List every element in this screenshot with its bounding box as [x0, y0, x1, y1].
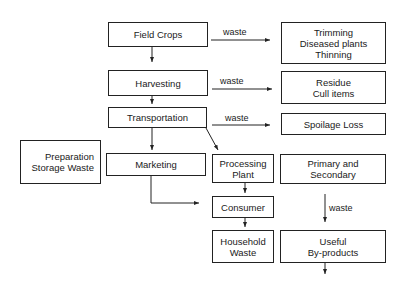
node-label: Transportation — [127, 112, 188, 123]
node-useful-byproducts: Useful By-products — [280, 230, 386, 263]
node-marketing: Marketing — [106, 153, 206, 176]
node-label: Field Crops — [134, 29, 183, 40]
node-label: Thinning — [315, 49, 351, 60]
node-trimming: Trimming Diseased plants Thinning — [281, 22, 386, 64]
node-label: Waste — [230, 247, 257, 258]
node-preparation: Preparation Storage Waste — [20, 140, 101, 184]
node-consumer: Consumer — [212, 196, 274, 218]
node-label: Preparation — [45, 151, 94, 162]
node-label: By-products — [308, 247, 359, 258]
node-label: Cull items — [313, 88, 355, 99]
node-label: Spoilage Loss — [304, 119, 364, 130]
node-processing-plant: Processing Plant — [212, 154, 274, 183]
node-label: Diseased plants — [300, 38, 368, 49]
node-spoilage: Spoilage Loss — [281, 113, 386, 135]
edge-label-waste: waste — [329, 203, 353, 213]
node-household-waste: Household Waste — [212, 230, 274, 263]
node-label: Household — [220, 236, 265, 247]
edge-label-waste: waste — [223, 27, 247, 37]
node-label: Secondary — [310, 169, 355, 180]
edge-label-waste: waste — [220, 76, 244, 86]
node-residue: Residue Cull items — [281, 71, 386, 104]
node-harvesting: Harvesting — [108, 70, 208, 96]
node-label: Plant — [232, 169, 254, 180]
node-transportation: Transportation — [108, 107, 207, 128]
node-label: Consumer — [221, 202, 265, 213]
edge-label-waste: waste — [225, 113, 249, 123]
node-label: Trimming — [314, 27, 353, 38]
node-label: Processing — [220, 158, 267, 169]
node-label: Storage Waste — [32, 162, 94, 173]
node-field-crops: Field Crops — [108, 22, 208, 47]
node-label: Marketing — [135, 159, 177, 170]
node-label: Useful — [320, 236, 347, 247]
node-primary-secondary: Primary and Secondary — [280, 154, 386, 184]
node-label: Residue — [316, 77, 351, 88]
node-label: Harvesting — [135, 78, 180, 89]
node-label: Primary and — [307, 158, 358, 169]
